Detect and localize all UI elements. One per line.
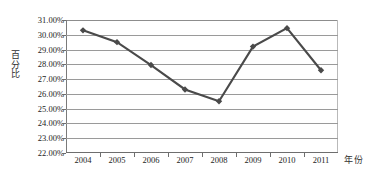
- y-axis-tick-label: 29.00%: [22, 45, 64, 54]
- y-axis-tick-label: 27.00%: [22, 75, 64, 84]
- x-axis-tick-label: 2011: [301, 155, 341, 166]
- line-chart-figure: 百分比 22.00%23.00%24.00%25.00%26.00%27.00%…: [0, 0, 375, 176]
- y-axis-title: 百分比: [8, 28, 22, 100]
- plot-area: [66, 20, 338, 153]
- y-axis-tick-label: 23.00%: [22, 134, 64, 143]
- data-point-marker: [80, 27, 86, 33]
- y-axis-tick-label: 28.00%: [22, 60, 64, 69]
- y-axis-tick-label: 31.00%: [22, 16, 64, 25]
- y-axis-tick-label: 26.00%: [22, 89, 64, 98]
- y-axis-tick-mark: [62, 153, 66, 154]
- x-axis-title: 年份: [344, 155, 363, 166]
- y-axis-tick-label: 30.00%: [22, 30, 64, 39]
- y-axis-tick-label: 24.00%: [22, 119, 64, 128]
- y-axis-tick-label: 22.00%: [22, 149, 64, 158]
- y-axis-tick-label-group: 22.00%23.00%24.00%25.00%26.00%27.00%28.0…: [22, 14, 64, 154]
- x-axis-tick-label-group: 20042005200620072008200920102011: [66, 155, 338, 171]
- series-marker-group: [80, 25, 324, 105]
- data-series-group: [66, 20, 338, 153]
- y-axis-tick-label: 25.00%: [22, 104, 64, 113]
- series-line-percentage: [83, 28, 321, 101]
